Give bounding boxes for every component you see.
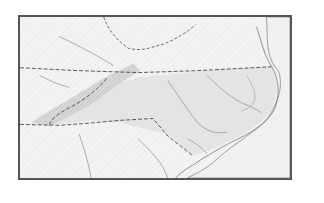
map-frame bbox=[18, 15, 292, 180]
relief-map bbox=[20, 17, 290, 178]
